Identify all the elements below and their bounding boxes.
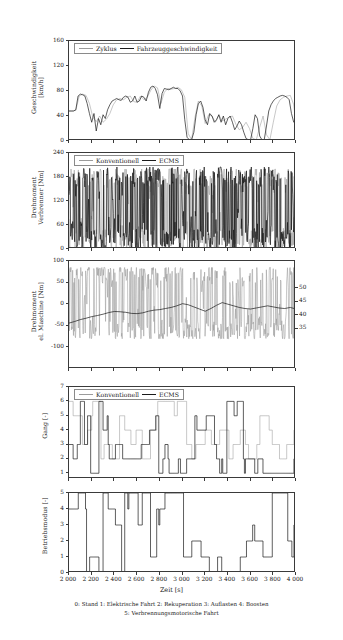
legend-engine_torque: KonventionellECMS [74, 155, 184, 166]
series-mode-0 [69, 493, 295, 572]
legend-label-1: ECMS [159, 157, 179, 164]
caption-line-1: 0: Stand 1: Elektrische Fahrt 2: Rekuper… [0, 600, 343, 609]
xtick-mark [295, 572, 296, 575]
ytick-mark [66, 540, 69, 541]
legend-line-1 [142, 160, 156, 161]
xtick-mark [91, 572, 92, 575]
ytick-mark [66, 492, 69, 493]
legend-gear: KonventionellECMS [74, 389, 184, 400]
legend-label-0: Konventionell [96, 391, 139, 398]
legend-line-1 [142, 394, 156, 395]
figure-multipanel-chart: 04080120160Geschwindigkeit [km/h]ZyklusF… [0, 0, 343, 640]
xtick-mark [250, 572, 251, 575]
xtick-mark [182, 572, 183, 575]
xtick-mark [68, 572, 69, 575]
ytick-mark [66, 508, 69, 509]
legend-label-1: ECMS [159, 391, 179, 398]
panel-mode: 0123452 0002 2002 4002 6002 8003 0003 20… [0, 0, 343, 640]
trace-layer-mode [69, 493, 295, 572]
plot-area-mode [68, 492, 295, 572]
xtick-mark [136, 572, 137, 575]
xtick-mark [113, 572, 114, 575]
yaxis-label-mode: Betriebsmodus [-] [41, 473, 48, 579]
xtick-mark [227, 572, 228, 575]
xtick-mark [159, 572, 160, 575]
legend-line-1 [120, 48, 134, 49]
ytick-mark [66, 556, 69, 557]
legend-line-0 [79, 394, 93, 395]
legend-label-0: Konventionell [96, 157, 139, 164]
xtick-mark [204, 572, 205, 575]
legend-label-1: Fahrzeuggeschwindigkeit [137, 45, 218, 52]
ytick-mark [66, 524, 69, 525]
legend-speed: ZyklusFahrzeuggeschwindigkeit [74, 43, 222, 54]
xaxis-label: Zeit [s] [0, 586, 343, 594]
caption-line-2: 5: Verbrennungsmotorische Fahrt [0, 609, 343, 618]
legend-label-0: Zyklus [96, 45, 117, 52]
xtick-label-10: 4 000 [281, 576, 309, 582]
legend-line-0 [79, 48, 93, 49]
xtick-mark [272, 572, 273, 575]
legend-line-0 [79, 160, 93, 161]
